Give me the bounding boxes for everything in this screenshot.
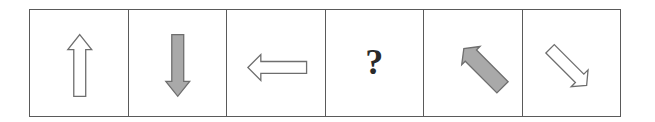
question-mark: ?	[365, 44, 383, 80]
arrow-up-left-filled-icon	[424, 10, 522, 116]
arrow-up-outline-icon	[30, 10, 128, 116]
cell-5	[424, 10, 523, 116]
cell-1	[30, 10, 129, 116]
arrow-down-right-outline-icon	[523, 10, 621, 116]
arrow-down-filled-icon	[129, 10, 227, 116]
arrow-sequence-puzzle: ?	[29, 9, 621, 117]
cell-2	[129, 10, 228, 116]
cell-6	[523, 10, 621, 116]
cell-4: ?	[326, 10, 425, 116]
arrow-left-outline-icon	[227, 10, 325, 116]
cell-3	[227, 10, 326, 116]
